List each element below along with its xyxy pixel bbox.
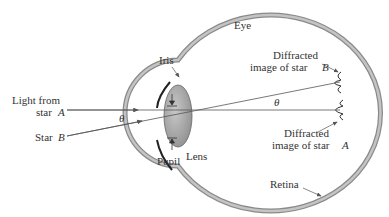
label-lens: Lens bbox=[186, 150, 207, 162]
label-pupil: Pupil bbox=[157, 155, 180, 167]
label-diffracted-a-var: A bbox=[341, 139, 349, 151]
label-diffracted-b-1: Diffracted bbox=[273, 49, 318, 61]
label-eye: Eye bbox=[234, 19, 251, 31]
label-retina: Retina bbox=[270, 178, 299, 190]
label-iris: Iris bbox=[159, 54, 174, 66]
label-light-from: Light from bbox=[12, 94, 60, 106]
label-theta-right: θ bbox=[274, 96, 280, 108]
label-star-a-var: A bbox=[57, 106, 65, 118]
eye-diagram: Eye Iris Pupil Lens Retina Light from st… bbox=[0, 0, 389, 217]
label-diffracted-a-1: Diffracted bbox=[284, 127, 329, 139]
label-diffracted-b-2: image of star bbox=[250, 61, 308, 73]
label-diffracted-b-var: B bbox=[322, 61, 329, 73]
label-theta-left: θ bbox=[119, 112, 125, 124]
label-star-b-word: Star bbox=[35, 131, 53, 143]
label-star-a-word: star bbox=[36, 106, 52, 118]
eyeball bbox=[125, 15, 381, 211]
label-star-b-var: B bbox=[58, 131, 65, 143]
label-diffracted-a-2: image of star bbox=[272, 139, 330, 151]
